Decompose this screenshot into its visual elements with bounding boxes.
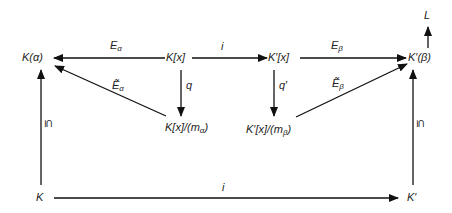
label-Etilde-beta-sub: β bbox=[339, 82, 344, 91]
node-Kx-quotient-end: ) bbox=[204, 121, 208, 133]
node-Kpx-quotient: K′[x]/(mβ) bbox=[246, 124, 291, 137]
label-E-alpha-sub: α bbox=[117, 44, 122, 53]
node-Kpx-quotient-end: ) bbox=[287, 123, 291, 135]
label-subset-right: ⊆ bbox=[415, 119, 426, 128]
label-Etilde-alpha-sub: α bbox=[119, 84, 124, 93]
node-Kx-quotient: K[x]/(mα) bbox=[165, 122, 208, 135]
node-Kp-beta: K′(β) bbox=[408, 52, 431, 63]
node-Kpx-quotient-text: K′[x]/(m bbox=[246, 123, 283, 135]
label-i-bottom: i bbox=[222, 182, 224, 193]
label-q: q bbox=[186, 80, 192, 91]
arrow-Etilde-alpha bbox=[55, 66, 166, 116]
node-Kp: K′ bbox=[407, 192, 416, 203]
label-E-beta-sub: β bbox=[338, 44, 343, 53]
label-E-alpha: Eα bbox=[110, 40, 122, 53]
node-L: L bbox=[424, 10, 430, 21]
arrow-Etilde-beta bbox=[296, 64, 407, 117]
label-Etilde-beta: Ẽβ bbox=[332, 78, 344, 91]
diagram-arrows bbox=[0, 0, 452, 213]
label-subset-left: ⊆ bbox=[43, 119, 54, 128]
label-i-top: i bbox=[221, 41, 223, 52]
node-K: K bbox=[36, 192, 43, 203]
node-Kx: K[x] bbox=[166, 52, 185, 63]
node-Kx-quotient-text: K[x]/(m bbox=[165, 121, 200, 133]
node-Kpx: K′[x] bbox=[268, 52, 289, 63]
label-Etilde-alpha: Ẽα bbox=[112, 80, 124, 93]
label-q-prime: q′ bbox=[279, 80, 287, 91]
node-K-alpha: K(α) bbox=[22, 52, 43, 63]
label-E-beta: Eβ bbox=[331, 40, 343, 53]
